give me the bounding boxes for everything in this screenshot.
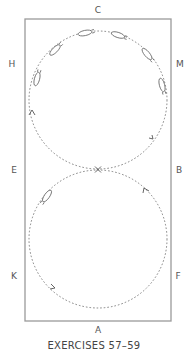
marker-a: A (91, 325, 105, 335)
marker-f: F (171, 271, 185, 281)
marker-m: M (173, 59, 187, 69)
horse-icon (141, 47, 156, 63)
figure-caption: EXERCISES 57–59 (0, 340, 188, 349)
horse-icon (78, 28, 95, 37)
marker-k: K (7, 271, 21, 281)
arena-diagram (0, 0, 188, 349)
horse-icon (111, 30, 128, 40)
horse-icon (39, 189, 53, 205)
direction-arrow-icon (149, 135, 153, 139)
marker-c: C (91, 5, 105, 15)
x-center-mark (95, 167, 101, 173)
direction-arrow-icon (50, 284, 55, 289)
horse-icon (33, 69, 42, 86)
horse-icon (48, 41, 63, 56)
marker-h: H (5, 59, 19, 69)
direction-arrow-icon (143, 188, 149, 193)
marker-e: E (7, 165, 21, 175)
marker-b: B (172, 165, 186, 175)
